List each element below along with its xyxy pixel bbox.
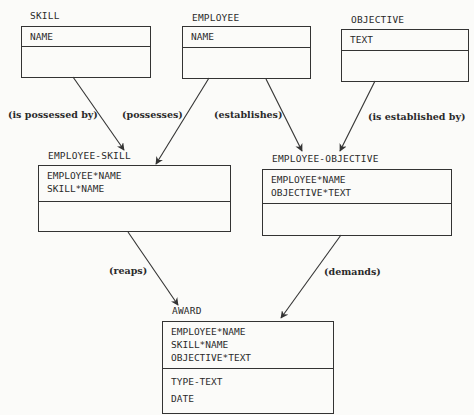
relationship-label-demands: (demands)	[324, 266, 381, 277]
entity-title-award: AWARD	[172, 305, 202, 316]
entity-title-employee: EMPLOYEE	[192, 12, 239, 23]
entity-employee-skill: EMPLOYEE*NAME SKILL*NAME	[38, 165, 231, 232]
entity-employee: NAME	[182, 26, 311, 79]
entity-employee-objective: EMPLOYEE*NAME OBJECTIVE*TEXT	[262, 169, 452, 236]
attribute: TYPE-TEXT	[171, 373, 333, 390]
key-attribute: OBJECTIVE*TEXT	[171, 351, 333, 364]
relationship-label-is-possessed-by: (is possessed by)	[8, 109, 98, 120]
key-attribute: TEXT	[350, 33, 468, 46]
key-attribute: EMPLOYEE*NAME	[171, 325, 333, 338]
entity-award: EMPLOYEE*NAME SKILL*NAME OBJECTIVE*TEXT …	[162, 321, 334, 414]
entity-employee-objective-attributes	[263, 204, 451, 207]
entity-objective-attributes	[342, 51, 468, 54]
key-attribute: EMPLOYEE*NAME	[271, 173, 451, 186]
entity-employee-skill-attributes	[39, 202, 230, 205]
entity-employee-attributes	[183, 48, 310, 51]
entity-title-employee-objective: EMPLOYEE-OBJECTIVE	[272, 153, 379, 164]
connector-employee-to-employee-skill	[156, 78, 209, 164]
entity-title-employee-skill: EMPLOYEE-SKILL	[48, 150, 131, 161]
entity-skill-keys: NAME	[22, 27, 150, 47]
key-attribute: OBJECTIVE*TEXT	[271, 186, 451, 199]
entity-skill: NAME	[21, 26, 151, 78]
entity-award-attributes: TYPE-TEXT DATE	[163, 369, 333, 407]
entity-award-keys: EMPLOYEE*NAME SKILL*NAME OBJECTIVE*TEXT	[163, 322, 333, 369]
key-attribute: SKILL*NAME	[171, 338, 333, 351]
entity-skill-attributes	[22, 47, 150, 50]
key-attribute: NAME	[191, 30, 310, 43]
key-attribute: NAME	[30, 30, 150, 43]
entity-employee-keys: NAME	[183, 27, 310, 48]
entity-objective-keys: TEXT	[342, 30, 468, 51]
entity-title-objective: OBJECTIVE	[351, 14, 404, 25]
key-attribute: SKILL*NAME	[47, 182, 230, 195]
relationship-label-reaps: (reaps)	[109, 265, 147, 276]
entity-employee-skill-keys: EMPLOYEE*NAME SKILL*NAME	[39, 166, 230, 202]
entity-title-skill: SKILL	[30, 10, 60, 21]
entity-objective: TEXT	[341, 29, 469, 82]
relationship-label-establishes: (establishes)	[214, 109, 282, 120]
attribute: DATE	[171, 390, 333, 407]
key-attribute: EMPLOYEE*NAME	[47, 169, 230, 182]
relationship-label-is-established-by: (is established by)	[368, 111, 465, 122]
relationship-label-possesses: (possesses)	[122, 109, 183, 120]
entity-employee-objective-keys: EMPLOYEE*NAME OBJECTIVE*TEXT	[263, 170, 451, 204]
